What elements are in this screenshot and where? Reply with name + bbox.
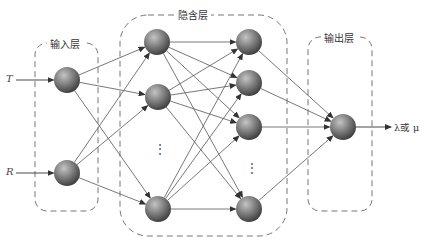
edge-hidden1-hidden2 bbox=[170, 101, 236, 123]
input-symbol-t: T bbox=[6, 73, 13, 84]
hidden1-neuron bbox=[144, 29, 170, 55]
edge-input-hidden1 bbox=[80, 82, 145, 94]
edge-input-hidden1 bbox=[79, 178, 145, 204]
hidden2-ellipsis: ⋮ bbox=[246, 161, 258, 175]
output-layer-label: 输出层 bbox=[321, 30, 357, 45]
hidden2-neuron bbox=[236, 29, 262, 55]
output-symbol: λ或 μ bbox=[394, 120, 419, 134]
output-neuron bbox=[330, 114, 356, 140]
edge-hidden2-output bbox=[259, 51, 333, 118]
hidden1-neuron bbox=[145, 196, 171, 222]
hidden1-neuron bbox=[145, 84, 171, 110]
hidden2-neuron bbox=[236, 196, 262, 222]
hidden2-neuron bbox=[236, 114, 262, 140]
edge-hidden1-hidden2 bbox=[171, 85, 236, 95]
input-neuron bbox=[54, 160, 80, 186]
edge-input-hidden1 bbox=[79, 47, 145, 75]
edge-input-hidden1 bbox=[77, 106, 148, 165]
edge-hidden1-hidden2 bbox=[169, 49, 237, 90]
edge-hidden2-output bbox=[261, 89, 331, 122]
input-layer-label: 输入层 bbox=[47, 36, 83, 51]
input-symbol-r: R bbox=[6, 166, 14, 177]
edge-hidden1-hidden2 bbox=[167, 51, 240, 118]
input-neuron bbox=[54, 67, 80, 93]
edge-hidden1-hidden2 bbox=[166, 94, 241, 199]
hidden-layer-label: 隐含层 bbox=[175, 7, 211, 22]
hidden1-ellipsis: ⋮ bbox=[154, 142, 166, 156]
hidden2-neuron bbox=[236, 70, 262, 96]
edge-input-hidden1 bbox=[74, 53, 149, 162]
edge-hidden2-output bbox=[259, 136, 333, 201]
connections bbox=[74, 42, 333, 209]
